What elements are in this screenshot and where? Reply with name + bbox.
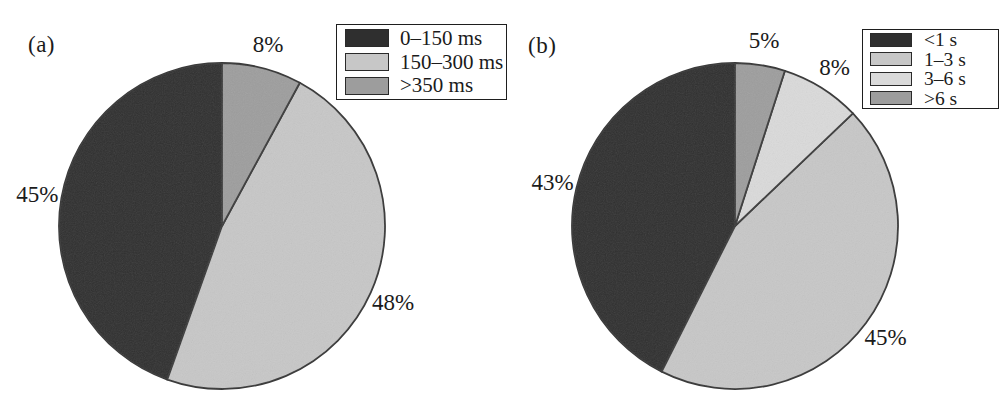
- slice-percent-label: 45%: [865, 325, 907, 350]
- panel-b: 43%45%8%5% (b) <1 s1–3 s3–6 s>6 s: [502, 0, 1003, 412]
- legend-item-1-s: <1 s: [863, 30, 998, 50]
- panel-a: 45%48%8% (a) 0–150 ms150–300 ms>350 ms: [0, 0, 502, 412]
- legend-swatch: [870, 33, 912, 47]
- slice-percent-label: 5%: [749, 28, 780, 53]
- slice-percent-label: 45%: [16, 182, 58, 207]
- dual-pie-chart-figure: 45%48%8% (a) 0–150 ms150–300 ms>350 ms 4…: [0, 0, 1003, 412]
- slice-percent-label: 43%: [532, 170, 574, 195]
- legend-item-3-6-s: 3–6 s: [863, 69, 998, 89]
- legend-item-0-150-ms: 0–150 ms: [337, 28, 506, 49]
- legend-label: 1–3 s: [924, 50, 966, 70]
- legend-item-6-s: >6 s: [863, 89, 998, 109]
- panel-a-label: (a): [28, 32, 55, 58]
- legend-label: >350 ms: [400, 75, 473, 96]
- legend-swatch: [870, 52, 912, 66]
- slice-percent-label: 8%: [819, 55, 850, 80]
- legend-swatch: [345, 53, 389, 71]
- grain-rect: [59, 63, 385, 389]
- slice-percent-label: 48%: [372, 290, 414, 315]
- legend-swatch: [870, 72, 912, 86]
- legend-label: 150–300 ms: [400, 52, 503, 73]
- legend-item-350-ms: >350 ms: [337, 75, 506, 96]
- legend-label: 0–150 ms: [400, 28, 482, 49]
- legend-swatch: [870, 91, 912, 105]
- grain-rect: [572, 63, 898, 389]
- legend-label: >6 s: [924, 89, 957, 109]
- legend-b: <1 s1–3 s3–6 s>6 s: [862, 29, 999, 109]
- slice-percent-label: 8%: [253, 32, 284, 57]
- scan-grain-overlay: [572, 63, 898, 389]
- legend-item-1-3-s: 1–3 s: [863, 50, 998, 70]
- legend-swatch: [345, 29, 389, 47]
- legend-label: 3–6 s: [924, 69, 966, 89]
- legend-swatch: [345, 77, 389, 95]
- legend-item-150-300-ms: 150–300 ms: [337, 52, 506, 73]
- legend-label: <1 s: [924, 30, 957, 50]
- scan-grain-overlay: [59, 63, 385, 389]
- panel-b-label: (b): [528, 33, 556, 59]
- legend-a: 0–150 ms150–300 ms>350 ms: [336, 24, 507, 100]
